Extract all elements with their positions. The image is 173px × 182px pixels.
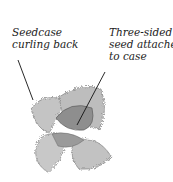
seedcase-illustration bbox=[0, 0, 173, 182]
leader-line-seedcase bbox=[18, 60, 33, 100]
